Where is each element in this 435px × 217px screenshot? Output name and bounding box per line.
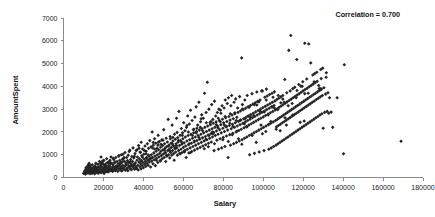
scatter-point	[225, 134, 229, 138]
scatter-point	[254, 141, 258, 145]
scatter-point	[259, 123, 263, 127]
scatter-point	[234, 97, 238, 101]
scatter-point	[229, 143, 233, 147]
x-tick-label: 120000	[291, 184, 314, 191]
scatter-point	[317, 84, 321, 88]
scatter-point	[225, 120, 229, 124]
scatter-point	[175, 116, 179, 120]
scatter-point	[271, 95, 275, 99]
scatter-point	[166, 118, 170, 122]
y-tick-label: 4000	[42, 83, 58, 90]
scatter-point	[164, 160, 168, 164]
scatter-point	[105, 157, 109, 161]
correlation-annotation: Correlation = 0.700	[335, 10, 400, 19]
scatter-point	[186, 114, 190, 118]
scatter-point	[215, 138, 219, 142]
scatter-point	[231, 117, 235, 121]
scatter-point	[328, 96, 332, 100]
scatter-point	[235, 116, 239, 120]
scatter-point	[303, 41, 307, 45]
scatter-point	[306, 91, 310, 95]
scatter-point	[164, 137, 168, 141]
scatter-point	[261, 132, 265, 136]
x-tick-label: 160000	[371, 184, 394, 191]
scatter-point	[190, 119, 194, 123]
scatter-point	[219, 131, 223, 135]
scatter-point	[255, 90, 259, 94]
scatter-point	[228, 118, 232, 122]
y-tick-label: 5000	[42, 60, 58, 67]
scatter-point	[290, 102, 294, 106]
scatter-point	[203, 91, 207, 95]
x-tick-label: 140000	[331, 184, 354, 191]
scatter-point	[289, 34, 293, 38]
scatter-point	[143, 144, 147, 148]
scatter-point	[245, 94, 249, 98]
scatter-point	[223, 130, 227, 134]
scatter-point	[99, 155, 103, 159]
scatter-point	[295, 58, 299, 62]
x-tick-label: 60000	[174, 184, 194, 191]
scatter-point	[172, 158, 176, 162]
y-tick-label: 1000	[42, 151, 58, 158]
scatter-point	[213, 142, 217, 146]
scatter-point	[182, 121, 186, 125]
scatter-point	[196, 123, 200, 127]
scatter-point	[301, 80, 305, 84]
scatter-point	[199, 120, 203, 124]
scatter-point	[156, 134, 160, 138]
x-tick-label: 40000	[134, 184, 154, 191]
scatter-point	[324, 75, 328, 79]
scatter-point	[226, 128, 230, 132]
scatter-point	[213, 99, 217, 103]
x-tick-label: 0	[62, 184, 66, 191]
scatter-point	[227, 96, 231, 100]
y-axis-tick-labels: 01000200030004000500060007000	[42, 15, 58, 182]
scatter-point	[230, 94, 234, 98]
scatter-point	[257, 150, 261, 154]
scatter-point	[139, 140, 143, 144]
scatter-point	[229, 104, 233, 108]
scatter-point	[236, 106, 240, 110]
scatter-point	[225, 102, 229, 106]
scatter-point	[207, 107, 211, 111]
scatter-point	[298, 121, 302, 125]
y-tick-label: 0	[54, 174, 58, 181]
scatter-point	[331, 126, 335, 130]
scatter-point	[264, 130, 268, 134]
x-tick-label: 80000	[214, 184, 234, 191]
scatter-point	[305, 77, 309, 81]
scatter-point	[200, 113, 204, 117]
scatter-point	[226, 140, 230, 144]
plot-canvas: 01000200030004000500060007000 0200004000…	[0, 0, 435, 217]
x-tick-label: 20000	[94, 184, 114, 191]
y-tick-label: 2000	[42, 129, 58, 136]
scatter-point	[248, 153, 252, 157]
scatter-point	[148, 139, 152, 143]
scatter-point	[184, 156, 188, 160]
scatter-point	[321, 126, 325, 130]
scatter-point	[206, 80, 210, 84]
scatter-point	[175, 131, 179, 135]
scatter-point	[218, 137, 222, 141]
scatter-point	[193, 115, 197, 119]
scatter-point	[343, 63, 347, 67]
scatter-point	[309, 61, 313, 65]
scatter-point	[212, 149, 216, 153]
scatter-point	[342, 152, 346, 156]
scatter-point	[194, 105, 198, 109]
scatter-point	[253, 152, 257, 156]
scatter-point	[223, 98, 227, 102]
data-points-layer	[82, 34, 403, 176]
scatter-point	[319, 77, 323, 81]
x-axis-title: Salary	[214, 199, 237, 208]
scatter-point	[335, 96, 339, 100]
scatter-point	[221, 138, 225, 142]
scatter-point	[177, 110, 181, 114]
scatter-point	[302, 119, 306, 123]
scatter-point	[180, 127, 184, 131]
scatter-point	[139, 151, 143, 155]
scatter-point	[269, 120, 273, 124]
scatter-point	[166, 140, 170, 144]
scatter-point	[168, 156, 172, 160]
